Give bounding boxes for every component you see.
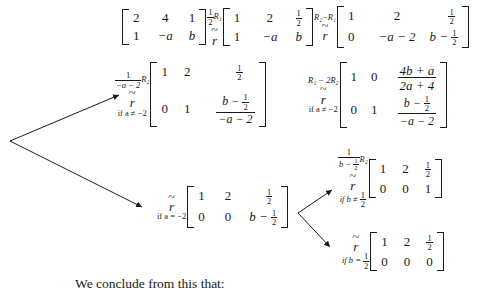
- fraction-numerator: b − 12: [220, 93, 250, 112]
- bracket-right: [259, 62, 266, 127]
- row-2-left-chain: 1 −a − 2 R₂ ~ r if a ≠ −2 1 2 1 2: [114, 62, 266, 127]
- matrix-cell: 2: [244, 8, 281, 29]
- fraction-numerator: 4b + a: [398, 64, 437, 78]
- matrix-cell: 2: [390, 159, 413, 180]
- matrix-after-r2-minus-r1: 1 2 1 2 0 −a − 2 b − 1 2: [337, 6, 469, 48]
- operation-row-label: R₂: [141, 74, 149, 84]
- matrix-cell: 1: [413, 180, 436, 198]
- operation-half-r1: 1 2 R₁ ~ r: [207, 8, 221, 45]
- matrix-cell: 0: [376, 180, 391, 198]
- fraction-b-minus-half-over-neg-a-minus-2: b − 12 −a − 2: [216, 93, 254, 125]
- matrix-cell: −a: [244, 29, 281, 47]
- matrix-cell: 1: [177, 9, 200, 27]
- arrow-to-b-eq-half: [298, 213, 330, 247]
- matrix-after-half-r1: 1 2 1 2 1 −a b: [223, 8, 313, 47]
- matrix-cell: 0: [344, 27, 359, 48]
- matrix-cell: 1: [344, 6, 359, 27]
- condition-a-neq-neg2: if a ≠ −2: [118, 109, 147, 118]
- bracket-left: [223, 8, 230, 47]
- matrix-cell: 1 2: [414, 232, 437, 253]
- matrix-cell: 1: [230, 8, 245, 29]
- matrix-cell: 0: [361, 62, 382, 93]
- matrix-cell: −a: [144, 27, 177, 45]
- matrix-cell: 1 2: [194, 62, 258, 92]
- row-2-right-chain: R₁ − 2R₂ ~ r if a ≠ −2 1 0 4b + a 2a + 4…: [307, 62, 447, 128]
- matrix-start: 2 4 1 1 −a b: [122, 9, 206, 45]
- matrix-cell: b: [281, 29, 306, 47]
- row-equivalence-symbol: ~ r: [352, 233, 359, 252]
- bracket-right: [462, 6, 469, 48]
- bracket-left: [370, 232, 377, 271]
- fraction-one-half: 1 2: [425, 161, 431, 179]
- matrix-cell: 0: [347, 93, 362, 128]
- matrix-cell: 1: [361, 93, 382, 128]
- bracket-right: [199, 9, 206, 45]
- row-3-case-a-eq-neg2: ~ r if a = −2 1 2 1 2 0 0 b −: [156, 186, 288, 228]
- matrix-cell: 2: [359, 6, 420, 27]
- arrow-to-a-neq-neg2: [10, 95, 119, 141]
- matrix-cell: 1 2: [420, 6, 462, 27]
- arrow-to-b-neq-half: [298, 190, 332, 213]
- matrix-cell: 2: [129, 9, 144, 27]
- operation-case-b-eq-half: ~ r if b = 12: [342, 233, 369, 270]
- matrix-cell: b − 1 2: [420, 27, 462, 48]
- condition-b-eq-half: if b = 12: [342, 252, 369, 270]
- fraction-4b-plus-a-over-2a-plus-4: 4b + a 2a + 4: [398, 64, 437, 92]
- matrix-cell: 0: [157, 92, 172, 127]
- matrix-cell: 0: [194, 207, 209, 228]
- matrix-cell: 1: [172, 92, 195, 127]
- matrix-cell: 0: [392, 253, 415, 271]
- operation-scale-r2-by-b-minus-half: 1 b − 12 R₂ ~ r if b ≠ 12: [338, 148, 368, 209]
- fraction-denominator: 2a + 4: [398, 77, 437, 92]
- operation-row-label: R₁: [214, 11, 222, 21]
- condition-a-neq-neg2: if a ≠ −2: [309, 105, 338, 114]
- row-1-chain: 2 4 1 1 −a b 1 2 R₁ ~ r: [122, 6, 469, 48]
- bracket-left: [122, 9, 129, 45]
- condition-a-eq-neg2: if a = −2: [157, 212, 186, 221]
- matrix-case-b-eq-half: 1 2 1 2 0 0 0: [370, 232, 444, 271]
- matrix-cell: 0: [209, 207, 236, 228]
- row-5-case-b-eq-half: ~ r if b = 12 1 2 1 2 0 0 0: [341, 232, 444, 271]
- row-equivalence-symbol: ~ r: [350, 172, 357, 191]
- bracket-right: [437, 232, 444, 271]
- fraction-one-half: 1 2: [448, 8, 454, 26]
- conclusion-text: We conclude from this that:: [75, 276, 225, 292]
- matrix-cell: 1 2: [281, 8, 306, 29]
- matrix-cell: 0: [390, 180, 413, 198]
- condition-b-neq-half: if b ≠ 12: [340, 191, 366, 209]
- bracket-left: [340, 62, 347, 128]
- fraction-denominator: −a − 2: [216, 112, 254, 126]
- matrix-cell: 0: [414, 253, 437, 271]
- row-equivalence-symbol: ~ r: [211, 26, 218, 45]
- bracket-left: [369, 159, 376, 198]
- matrix-cell: 1: [194, 186, 209, 207]
- fraction-one-half: 1 2: [426, 234, 432, 252]
- fraction-one-half: 1 2: [451, 29, 457, 47]
- matrix-cell: −a − 2: [359, 27, 420, 48]
- matrix-cell: 1: [230, 29, 245, 47]
- fraction-one-half: 1 2: [266, 188, 272, 206]
- math-derivation-page: 2 4 1 1 −a b 1 2 R₁ ~ r: [0, 0, 486, 301]
- matrix-cell: 1: [376, 159, 391, 180]
- fraction-one-half: 1 2: [236, 64, 242, 82]
- row-equivalence-symbol: ~ r: [320, 85, 327, 104]
- matrix-cell: b − 12 −a − 2: [382, 93, 441, 128]
- row-equivalence-symbol: ~ r: [129, 89, 136, 108]
- bracket-right: [306, 8, 313, 47]
- matrix-cell: 1: [157, 62, 172, 92]
- matrix-cell: 1: [347, 62, 362, 93]
- matrix-case-a-eq-neg2: 1 2 1 2 0 0 b − 1 2: [187, 186, 288, 228]
- matrix-cell: 2: [392, 232, 415, 253]
- operation-case-a-eq-neg2: ~ r if a = −2: [157, 193, 186, 221]
- operation-r2-minus-r1: R₂−R₁ ~ r: [314, 13, 336, 41]
- fraction-numerator: b − 12: [402, 95, 432, 114]
- matrix-cell: 1 2: [235, 186, 281, 207]
- matrix-cell: 0: [377, 253, 392, 271]
- row-equivalence-symbol: ~ r: [322, 22, 329, 41]
- row-equivalence-symbol: ~ r: [168, 193, 175, 212]
- matrix-cell: 2: [209, 186, 236, 207]
- row-4-case-b-neq-half: 1 b − 12 R₂ ~ r if b ≠ 12 1 2 1 2: [337, 148, 442, 209]
- matrix-cell: 4b + a 2a + 4: [382, 62, 441, 93]
- fraction-one-half: 1 2: [296, 9, 302, 27]
- arrow-to-a-eq-neg2: [10, 141, 142, 207]
